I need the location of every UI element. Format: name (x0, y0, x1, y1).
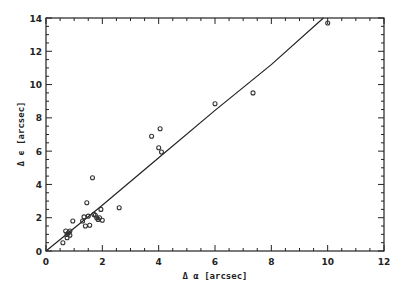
y-axis-label: Δ ϵ [arcsec] (16, 101, 26, 166)
data-point (88, 223, 92, 227)
x-tick-label: 8 (268, 257, 274, 267)
x-tick-label: 10 (321, 257, 334, 267)
y-tick-label: 12 (29, 47, 42, 57)
data-points (61, 21, 330, 245)
x-axis-label: Δ α [arcsec] (182, 271, 247, 281)
x-tick-label: 12 (378, 257, 391, 267)
data-point (150, 134, 154, 138)
data-point (91, 176, 95, 180)
data-point (82, 215, 86, 219)
data-point (61, 241, 65, 245)
x-tick-label: 4 (156, 257, 162, 267)
data-point (251, 91, 255, 95)
data-point (158, 127, 162, 131)
y-tick-label: 8 (36, 113, 42, 123)
x-tick-label: 2 (99, 257, 105, 267)
data-point (85, 201, 89, 205)
y-tick-label: 0 (36, 247, 42, 257)
data-point (213, 102, 217, 106)
tick-labels: 02468101202468101214 (29, 14, 390, 268)
y-tick-label: 6 (36, 147, 42, 157)
data-point (160, 150, 164, 154)
y-tick-label: 14 (29, 14, 42, 24)
y-tick-label: 4 (36, 180, 42, 190)
x-tick-label: 0 (43, 257, 49, 267)
y-tick-label: 2 (36, 213, 42, 223)
data-point (100, 218, 104, 222)
data-point (117, 206, 121, 210)
data-point (157, 146, 161, 150)
x-tick-label: 6 (212, 257, 218, 267)
data-point (71, 219, 75, 223)
y-tick-label: 10 (29, 80, 42, 90)
data-point (83, 224, 87, 228)
fit-line (46, 18, 323, 251)
data-point (99, 207, 103, 211)
scatter-plot: 02468101202468101214 Δ α [arcsec] Δ ϵ [a… (0, 0, 402, 290)
